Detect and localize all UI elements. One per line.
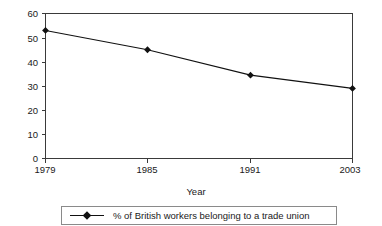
x-axis-title: Year (186, 186, 205, 197)
y-tick-label-30: 30 (27, 81, 38, 92)
x-tick-label-1979: 1979 (34, 164, 55, 175)
series-line (46, 30, 353, 88)
x-tick-label-1991: 1991 (239, 164, 260, 175)
data-point-marker (42, 27, 49, 34)
legend-entry-label: % of British workers belonging to a trad… (113, 210, 309, 221)
x-tick-marks (46, 159, 353, 163)
legend-marker-diamond-icon (83, 211, 92, 220)
plot-frame (46, 14, 353, 159)
y-tick-label-10: 10 (27, 129, 38, 140)
x-tick-label-1985: 1985 (136, 164, 157, 175)
data-point-marker (144, 46, 151, 53)
data-point-marker (349, 85, 356, 92)
x-tick-label-2003: 2003 (339, 164, 360, 175)
data-point-marker (247, 72, 254, 79)
y-tick-label-40: 40 (27, 57, 38, 68)
series-markers (42, 27, 356, 92)
line-chart: 0 10 20 30 40 50 60 1979 1985 1991 2003 … (0, 0, 382, 226)
y-tick-label-60: 60 (27, 8, 38, 19)
chart-canvas: 0 10 20 30 40 50 60 1979 1985 1991 2003 … (0, 0, 382, 226)
y-tick-labels: 0 10 20 30 40 50 60 (27, 8, 38, 164)
y-tick-label-20: 20 (27, 105, 38, 116)
y-tick-label-50: 50 (27, 33, 38, 44)
y-tick-label-0: 0 (33, 153, 38, 164)
x-tick-labels: 1979 1985 1991 2003 (34, 164, 360, 175)
chart-legend: % of British workers belonging to a trad… (62, 207, 337, 225)
y-tick-marks (42, 14, 46, 159)
